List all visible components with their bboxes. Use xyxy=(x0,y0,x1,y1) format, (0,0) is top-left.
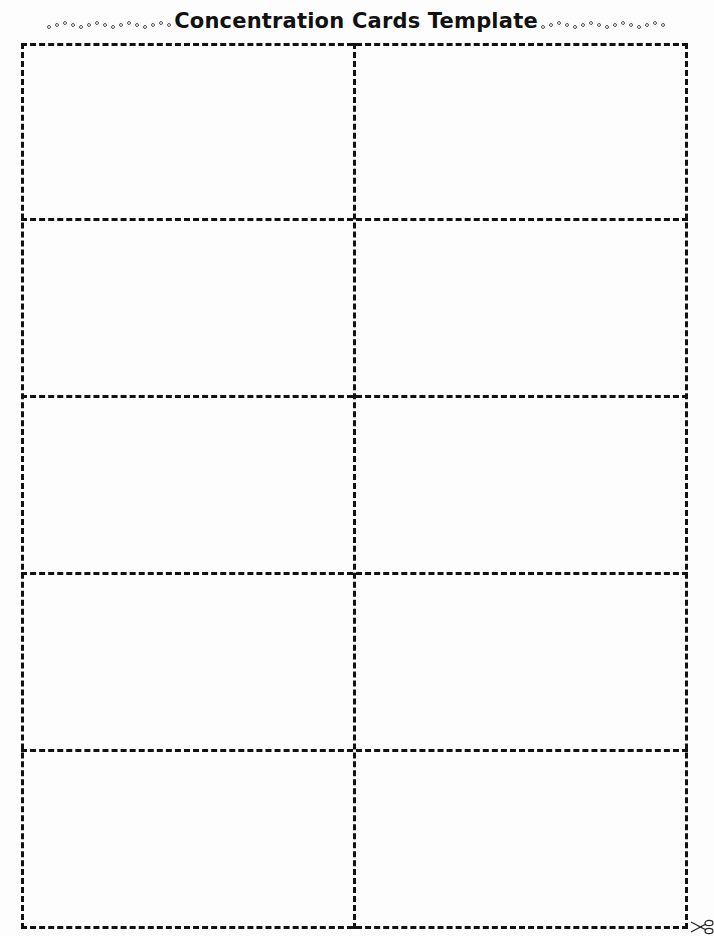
dot-icon xyxy=(135,23,139,27)
dot-icon xyxy=(557,21,561,25)
dot-icon xyxy=(613,23,617,27)
dot-icon xyxy=(119,23,123,27)
dot-icon xyxy=(55,23,59,27)
dot-icon xyxy=(637,25,641,29)
dot-icon xyxy=(151,23,155,27)
card-r1-c1 xyxy=(21,43,354,219)
dot-icon xyxy=(159,21,163,25)
decorative-dots-right xyxy=(541,9,665,33)
card-grid xyxy=(21,43,688,929)
dot-icon xyxy=(621,21,625,25)
card-r2-c1 xyxy=(21,219,354,396)
page-header: Concentration Cards Template xyxy=(0,6,712,36)
card-r4-c2 xyxy=(354,573,688,750)
card-r5-c2 xyxy=(354,750,688,929)
cut-line-row-4 xyxy=(21,749,688,752)
card-r1-c2 xyxy=(354,43,688,219)
dot-icon xyxy=(581,23,585,27)
dot-icon xyxy=(541,25,545,29)
dot-icon xyxy=(629,23,633,27)
dot-icon xyxy=(47,25,51,29)
dot-icon xyxy=(549,23,553,27)
dot-icon xyxy=(71,23,75,27)
card-r3-c2 xyxy=(354,396,688,573)
cut-line-row-1 xyxy=(21,218,688,221)
dot-icon xyxy=(127,21,131,25)
dot-icon xyxy=(103,23,107,27)
card-r3-c1 xyxy=(21,396,354,573)
dot-icon xyxy=(87,23,91,27)
dot-icon xyxy=(143,25,147,29)
dot-icon xyxy=(111,25,115,29)
dot-icon xyxy=(589,21,593,25)
decorative-dots-left xyxy=(47,9,171,33)
card-r2-c2 xyxy=(354,219,688,396)
dot-icon xyxy=(653,21,657,25)
card-r5-c1 xyxy=(21,750,354,929)
cut-line-row-3 xyxy=(21,572,688,575)
card-r4-c1 xyxy=(21,573,354,750)
dot-icon xyxy=(565,23,569,27)
cut-line-center-vertical xyxy=(353,43,356,929)
dot-icon xyxy=(63,21,67,25)
dot-icon xyxy=(605,25,609,29)
dot-icon xyxy=(661,23,665,27)
dot-icon xyxy=(645,23,649,27)
dot-icon xyxy=(95,21,99,25)
cut-line-left xyxy=(21,43,24,929)
scissors-icon xyxy=(690,918,714,936)
cut-line-right xyxy=(685,43,688,929)
dot-icon xyxy=(79,25,83,29)
page-title: Concentration Cards Template xyxy=(171,9,541,33)
cut-line-row-2 xyxy=(21,395,688,398)
dot-icon xyxy=(597,23,601,27)
dot-icon xyxy=(573,25,577,29)
